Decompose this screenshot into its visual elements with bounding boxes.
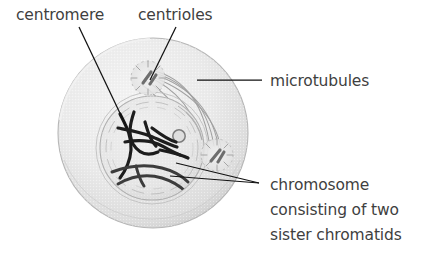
- label-centromere: centromere: [16, 6, 104, 24]
- diagram-canvas: centromere centrioles microtubules chrom…: [0, 0, 437, 272]
- label-chromosome-line3: sister chromatids: [270, 226, 402, 244]
- centriole-aster-bottom: [201, 139, 233, 171]
- label-microtubules: microtubules: [270, 72, 369, 90]
- label-centrioles: centrioles: [138, 6, 213, 24]
- cell-diagram: centromere centrioles microtubules chrom…: [0, 0, 437, 272]
- label-chromosome-line1: chromosome: [270, 176, 369, 194]
- label-chromosome-line2: consisting of two: [270, 201, 399, 219]
- centriole-aster-top: [131, 61, 165, 95]
